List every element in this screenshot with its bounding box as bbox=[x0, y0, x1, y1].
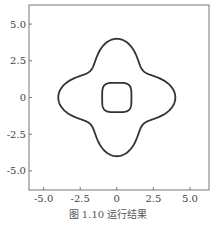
inner-curve bbox=[102, 83, 131, 112]
outer-curve bbox=[58, 39, 175, 156]
y-tick-label: 2.5 bbox=[10, 55, 26, 66]
x-tick-label: -2.5 bbox=[71, 193, 90, 204]
y-tick-label: -2.5 bbox=[7, 129, 26, 140]
y-tick-label: 0 bbox=[20, 92, 26, 103]
figure-caption: 图 1.10 运行结果 bbox=[0, 206, 216, 221]
x-tick-label: 0 bbox=[114, 193, 120, 204]
contour-plot: -5.0-2.502.55.05.02.50-2.5-5.0 bbox=[0, 0, 216, 205]
y-tick-label: 5.0 bbox=[10, 19, 26, 30]
y-tick-label: -5.0 bbox=[7, 165, 26, 176]
x-tick-label: 2.5 bbox=[145, 193, 161, 204]
plot-frame bbox=[29, 5, 209, 190]
x-tick-label: 5.0 bbox=[182, 193, 198, 204]
x-tick-label: -5.0 bbox=[34, 193, 53, 204]
